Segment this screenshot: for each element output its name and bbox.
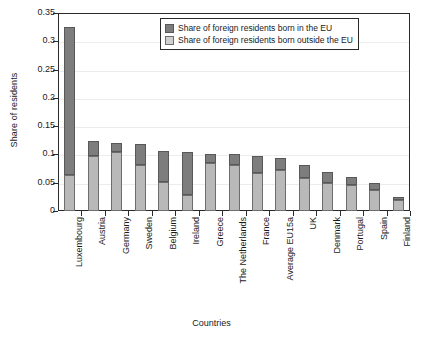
x-category-label: Finland: [402, 217, 412, 247]
bar-segment-in-eu: [158, 151, 169, 182]
bar-segment-outside-eu: [229, 165, 240, 211]
x-tick-mark: [340, 211, 341, 216]
bar-segment-in-eu: [275, 158, 286, 170]
bar-segment-outside-eu: [275, 170, 286, 211]
bar-segment-in-eu: [88, 141, 99, 156]
x-tick-mark: [81, 211, 82, 216]
x-category-label: UK: [308, 217, 318, 230]
bar-segment-outside-eu: [346, 185, 357, 211]
bar-segment-outside-eu: [135, 165, 146, 211]
x-category-label: The Netherlands: [238, 217, 248, 284]
bar-segment-outside-eu: [88, 156, 99, 211]
x-tick-mark: [175, 211, 176, 216]
bar-segment-in-eu: [111, 143, 122, 151]
bar-segment-in-eu: [369, 183, 380, 190]
x-tick-mark: [246, 211, 247, 216]
x-tick-mark: [152, 211, 153, 216]
bar-segment-in-eu: [135, 144, 146, 165]
x-category-label: Sweden: [144, 217, 154, 250]
bar-segment-in-eu: [64, 27, 75, 175]
bar-group: [393, 13, 404, 211]
x-tick-mark: [387, 211, 388, 216]
bar-segment-in-eu: [252, 156, 263, 173]
bar-segment-outside-eu: [252, 173, 263, 211]
x-category-label: Spain: [379, 217, 389, 240]
legend-swatch-in-eu-icon: [165, 24, 174, 33]
bar-segment-outside-eu: [322, 183, 333, 211]
bar-segment-in-eu: [299, 165, 310, 179]
x-tick-mark: [105, 211, 106, 216]
legend-label-in-eu: Share of foreign residents born in the E…: [178, 23, 332, 34]
x-category-label: Greece: [215, 217, 225, 247]
legend-item-in-eu: Share of foreign residents born in the E…: [165, 22, 353, 34]
y-tick-label: 0.2: [15, 93, 55, 102]
x-category-label: Belgium: [168, 217, 178, 250]
legend: Share of foreign residents born in the E…: [160, 18, 359, 50]
bar-segment-in-eu: [393, 197, 404, 200]
y-tick-label: 0.05: [15, 178, 55, 187]
bar-segment-in-eu: [182, 152, 193, 195]
y-tick-label: 0.3: [15, 36, 55, 45]
x-tick-mark: [269, 211, 270, 216]
x-category-label: Ireland: [191, 217, 201, 245]
bar-segment-outside-eu: [64, 175, 75, 211]
legend-item-outside-eu: Share of foreign residents born outside …: [165, 34, 353, 46]
bar-group: [369, 13, 380, 211]
x-category-label: Austria: [97, 217, 107, 245]
bar-segment-outside-eu: [158, 182, 169, 211]
bar-segment-in-eu: [205, 154, 216, 163]
bar-segment-outside-eu: [182, 195, 193, 211]
legend-swatch-outside-eu-icon: [165, 36, 174, 45]
y-tick-label: 0: [15, 206, 55, 215]
x-tick-mark: [363, 211, 364, 216]
x-category-label: Germany: [121, 217, 131, 254]
bar-segment-outside-eu: [111, 152, 122, 211]
y-tick-label: 0.35: [15, 8, 55, 17]
bar-group: [64, 13, 75, 211]
bar-chart: Share of residents 00.050.10.150.20.250.…: [0, 0, 423, 339]
bar-segment-outside-eu: [299, 178, 310, 211]
legend-label-outside-eu: Share of foreign residents born outside …: [178, 35, 353, 46]
y-tick-label: 0.15: [15, 121, 55, 130]
y-tick-label: 0.25: [15, 65, 55, 74]
x-category-label: Denmark: [332, 217, 342, 254]
y-tick-label: 0.1: [15, 149, 55, 158]
x-tick-mark: [316, 211, 317, 216]
bar-group: [135, 13, 146, 211]
x-tick-mark: [293, 211, 294, 216]
bar-group: [111, 13, 122, 211]
x-category-label: Average EU15a: [285, 217, 295, 280]
x-category-label: Portugal: [355, 217, 365, 251]
bar-segment-outside-eu: [393, 200, 404, 211]
bar-segment-outside-eu: [205, 163, 216, 211]
x-category-label: Luxembourg: [74, 217, 84, 267]
bar-group: [88, 13, 99, 211]
bar-segment-in-eu: [322, 172, 333, 183]
x-category-label: France: [261, 217, 271, 245]
x-tick-mark: [128, 211, 129, 216]
bar-segment-outside-eu: [369, 190, 380, 211]
x-tick-mark: [410, 211, 411, 216]
bar-segment-in-eu: [229, 154, 240, 164]
x-axis-title: Countries: [0, 318, 423, 328]
bar-segment-in-eu: [346, 177, 357, 185]
x-tick-mark: [199, 211, 200, 216]
x-tick-mark: [222, 211, 223, 216]
